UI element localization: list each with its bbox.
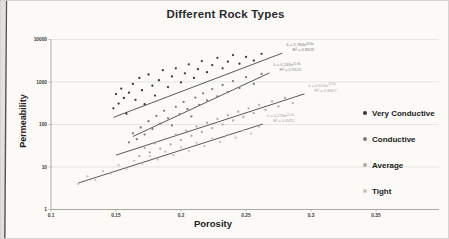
legend-marker-very-conductive-icon (363, 111, 367, 115)
legend: Very Conductive Conductive Average Tight (363, 100, 449, 204)
svg-text:1000: 1000 (36, 80, 47, 85)
svg-text:R² = 0.8667: R² = 0.8667 (315, 88, 338, 93)
chart-title: Different Rock Types (1, 8, 449, 20)
svg-text:R² = 0.9121: R² = 0.9121 (279, 67, 302, 72)
legend-item-very-conductive: Very Conductive (363, 100, 449, 126)
legend-marker-tight-icon (363, 189, 367, 193)
legend-label-average: Average (372, 161, 403, 170)
svg-text:1: 1 (44, 207, 47, 212)
legend-label-conductive: Conductive (372, 135, 416, 144)
y-axis-label: Permeability (18, 61, 28, 181)
legend-item-conductive: Conductive (363, 126, 449, 152)
legend-marker-conductive-icon (363, 137, 367, 141)
svg-text:10000: 10000 (34, 37, 48, 42)
legend-marker-average-icon (363, 163, 367, 167)
legend-item-average: Average (363, 152, 449, 178)
legend-label-very-conductive: Very Conductive (372, 109, 435, 118)
x-axis-label: Porosity (1, 218, 425, 229)
svg-text:R² = 0.8625: R² = 0.8625 (292, 47, 315, 52)
chart-page: 1101001000100000.10.150.20.250.30.35k = … (0, 0, 449, 239)
legend-item-tight: Tight (363, 178, 449, 204)
svg-text:10: 10 (42, 165, 48, 170)
svg-text:100: 100 (39, 122, 47, 127)
legend-label-tight: Tight (372, 187, 391, 196)
svg-text:R² = 0.8451: R² = 0.8451 (273, 118, 296, 123)
